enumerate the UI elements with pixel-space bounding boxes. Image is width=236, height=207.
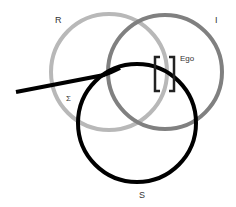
label-ego: Ego	[180, 54, 195, 63]
label-s: S	[139, 190, 145, 200]
label-r: R	[55, 15, 62, 25]
label-i: I	[215, 15, 218, 25]
label-sigma: Σ	[66, 94, 71, 103]
borromean-diagram: R I Ego Σ S	[0, 0, 236, 207]
ego-bracket-left	[155, 57, 160, 91]
